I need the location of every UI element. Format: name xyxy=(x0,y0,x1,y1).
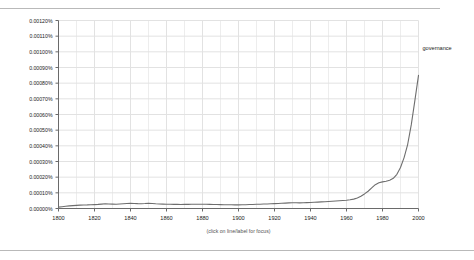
svg-text:1900: 1900 xyxy=(232,215,244,221)
line-chart[interactable]: 0.00120%0.00110%0.00100%0.00090%0.00080%… xyxy=(0,12,474,248)
svg-text:0.00000%: 0.00000% xyxy=(29,206,53,212)
svg-text:1820: 1820 xyxy=(88,215,100,221)
svg-text:1800: 1800 xyxy=(52,215,64,221)
svg-text:0.00100%: 0.00100% xyxy=(29,49,53,55)
svg-text:2000: 2000 xyxy=(412,215,424,221)
svg-text:0.00110%: 0.00110% xyxy=(30,33,53,39)
series-label-governance[interactable]: governance xyxy=(423,45,452,51)
svg-text:0.00050%: 0.00050% xyxy=(29,127,53,133)
svg-text:0.00010%: 0.00010% xyxy=(29,190,53,196)
svg-text:0.00040%: 0.00040% xyxy=(29,143,53,149)
svg-text:1980: 1980 xyxy=(376,215,388,221)
focus-hint-label: (click on line/label for focus) xyxy=(206,228,270,234)
svg-text:0.00080%: 0.00080% xyxy=(29,80,53,86)
top-divider xyxy=(0,8,440,9)
svg-text:0.00070%: 0.00070% xyxy=(29,96,53,102)
svg-text:1940: 1940 xyxy=(304,215,316,221)
ngram-chart-page: 0.00120%0.00110%0.00100%0.00090%0.00080%… xyxy=(0,0,474,260)
svg-text:0.00030%: 0.00030% xyxy=(29,159,53,165)
y-axis-tick-labels: 0.00120%0.00110%0.00100%0.00090%0.00080%… xyxy=(29,18,53,212)
svg-text:0.00020%: 0.00020% xyxy=(29,174,53,180)
svg-text:0.00090%: 0.00090% xyxy=(29,65,53,71)
svg-text:1840: 1840 xyxy=(124,215,136,221)
svg-text:1960: 1960 xyxy=(340,215,352,221)
svg-text:0.00060%: 0.00060% xyxy=(29,112,53,118)
bottom-divider xyxy=(0,250,474,251)
svg-text:0.00120%: 0.00120% xyxy=(29,18,53,24)
x-axis-tick-labels: 1800182018401860188019001920194019601980… xyxy=(52,215,424,221)
chart-area: 0.00120%0.00110%0.00100%0.00090%0.00080%… xyxy=(0,12,474,248)
svg-text:1920: 1920 xyxy=(268,215,280,221)
svg-text:1860: 1860 xyxy=(160,215,172,221)
svg-text:1880: 1880 xyxy=(196,215,208,221)
